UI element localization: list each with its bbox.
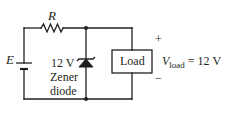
battery-icon: [16, 63, 32, 69]
resistor-label: R: [48, 9, 56, 22]
junction-dot-top: [84, 26, 88, 30]
load-label: Load: [120, 55, 145, 67]
load-voltage-label: Vload = 12 V: [162, 55, 221, 70]
plus-terminal-label: +: [155, 33, 162, 45]
resistor-icon: [41, 24, 63, 32]
load-voltage-value: = 12 V: [188, 54, 221, 68]
load-voltage-subscript: load: [169, 60, 185, 70]
zener-name-line2: diode: [50, 85, 77, 97]
zener-diode-icon: [77, 57, 95, 67]
minus-terminal-label: −: [155, 72, 162, 84]
zener-name-line1: Zener: [50, 71, 78, 83]
junction-dot-bottom: [84, 97, 88, 101]
source-label: E: [6, 53, 14, 66]
zener-voltage-label: 12 V: [51, 57, 74, 69]
